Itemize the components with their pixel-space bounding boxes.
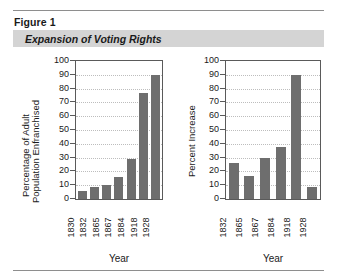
chart-enfranchisement: 0102030405060708090100 Percentage of Adu… bbox=[18, 55, 168, 270]
y-tick-label: 0 bbox=[214, 194, 219, 203]
bar bbox=[102, 185, 111, 199]
top-divider bbox=[13, 10, 324, 11]
x-axis-labels-right: 183218651867188419181928 bbox=[225, 203, 321, 249]
bar bbox=[90, 187, 99, 199]
y-tick-label: 100 bbox=[204, 56, 219, 65]
y-tick-label: 80 bbox=[209, 83, 219, 92]
y-tick-label: 80 bbox=[59, 83, 69, 92]
y-tick-label: 20 bbox=[209, 166, 219, 175]
y-tick-label: 50 bbox=[59, 125, 69, 134]
bar bbox=[151, 75, 160, 199]
bar bbox=[276, 147, 286, 199]
y-tick-label: 30 bbox=[59, 152, 69, 161]
bar bbox=[229, 163, 239, 199]
bar bbox=[260, 158, 270, 199]
bar bbox=[78, 191, 87, 199]
bar bbox=[307, 187, 317, 199]
y-tick-label: 20 bbox=[59, 166, 69, 175]
bar-series-left bbox=[76, 61, 162, 199]
y-tick-label: 30 bbox=[209, 152, 219, 161]
y-tick-label: 10 bbox=[59, 180, 69, 189]
y-tick-label: 90 bbox=[59, 69, 69, 78]
figure-label: Figure 1 bbox=[14, 16, 56, 28]
y-tick-label: 40 bbox=[59, 138, 69, 147]
y-axis-title-right: Percent Increase bbox=[186, 105, 197, 177]
x-axis-title-right: Year bbox=[225, 253, 321, 264]
y-tick-label: 0 bbox=[64, 194, 69, 203]
figure-page: Figure 1 Expansion of Voting Rights 0102… bbox=[0, 0, 337, 276]
y-tick-label: 90 bbox=[209, 69, 219, 78]
y-tick-label: 70 bbox=[59, 97, 69, 106]
x-tick-label: 1928 bbox=[297, 229, 329, 238]
y-tick-label: 40 bbox=[209, 138, 219, 147]
y-tick-label: 60 bbox=[209, 111, 219, 120]
x-axis-title-left: Year bbox=[75, 253, 163, 264]
y-axis-title-left-line2: Population Enfranchised bbox=[30, 100, 41, 203]
chart-percent-increase: 0102030405060708090100 Percent Increase … bbox=[180, 55, 330, 270]
x-tick-label: 1928 bbox=[141, 229, 173, 238]
figure-title: Expansion of Voting Rights bbox=[25, 33, 162, 45]
bar bbox=[291, 75, 301, 199]
plot-area-left bbox=[75, 60, 163, 200]
bar bbox=[114, 177, 123, 199]
y-tick-label: 70 bbox=[209, 97, 219, 106]
bar bbox=[127, 159, 136, 199]
plot-area-right bbox=[225, 60, 321, 200]
bottom-divider bbox=[13, 270, 324, 271]
y-tick-label: 100 bbox=[54, 56, 69, 65]
y-tick-label: 10 bbox=[209, 180, 219, 189]
bar bbox=[244, 176, 254, 199]
x-axis-labels-left: 1830183218651867188419181928 bbox=[75, 203, 163, 249]
bar-series-right bbox=[226, 61, 320, 199]
figure-title-band: Expansion of Voting Rights bbox=[13, 30, 324, 47]
y-tick-label: 60 bbox=[59, 111, 69, 120]
bar bbox=[139, 93, 148, 199]
y-tick-label: 50 bbox=[209, 125, 219, 134]
